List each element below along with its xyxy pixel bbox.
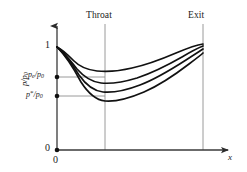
x-axis-title: x [228,152,232,162]
nozzle-pressure-figure: Throat Exit 1 0 0 pe/p0 p*/p0 p/p0 x [0,0,247,172]
pstar-denominator-sub: 0 [40,93,43,99]
throat-label: Throat [86,11,112,21]
x-tick-zero: 0 [53,155,58,165]
y-axis-title: p/p0 [19,59,29,99]
pstar-tick-marker [55,94,60,99]
origin-marker [55,148,60,153]
plot-canvas [0,0,247,172]
y-axis-title-main: p/p [19,75,29,86]
exit-label: Exit [188,11,204,21]
y-axis-title-sub: 0 [22,72,29,75]
pe-denominator-sub: 0 [41,73,44,79]
y-tick-one: 1 [45,40,50,50]
pe-over-p0-label: pe/p0 [28,71,44,79]
y-tick-zero: 0 [45,143,50,153]
pe-tick-marker [55,75,60,80]
